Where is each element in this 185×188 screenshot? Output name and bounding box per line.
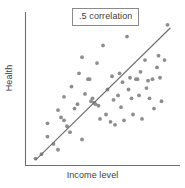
data-point (91, 96, 95, 100)
data-point (121, 80, 125, 84)
data-point (46, 121, 50, 125)
data-point (137, 93, 141, 97)
data-point (136, 77, 140, 81)
data-point (56, 148, 60, 152)
data-point (140, 117, 144, 121)
data-point (80, 55, 84, 59)
data-point (127, 88, 131, 92)
data-point (56, 108, 60, 112)
data-point (104, 113, 108, 117)
scatter-plot-figure: .5 correlation Health Income level (0, 0, 185, 188)
data-point (70, 85, 74, 89)
data-point (116, 93, 120, 97)
data-point (166, 23, 170, 27)
data-point (128, 76, 132, 80)
data-point (73, 107, 77, 111)
correlation-annotation-label: .5 correlation (79, 11, 132, 21)
data-point (76, 102, 80, 106)
data-point (46, 135, 50, 139)
data-point (101, 44, 105, 48)
data-point (68, 130, 72, 134)
data-point (143, 58, 147, 62)
data-point (77, 71, 81, 75)
data-point (125, 35, 129, 39)
data-point (88, 77, 92, 81)
data-point (152, 107, 156, 111)
data-point (145, 86, 149, 90)
x-axis-label: Income level (0, 170, 185, 180)
data-point (110, 74, 114, 78)
data-point (122, 118, 126, 122)
data-point (151, 77, 155, 81)
correlation-annotation-box: .5 correlation (72, 8, 139, 26)
data-point (131, 113, 135, 117)
data-point (130, 96, 134, 100)
data-point (112, 98, 116, 102)
data-point (148, 96, 152, 100)
data-point (109, 120, 113, 124)
data-point (160, 99, 164, 103)
data-point (59, 116, 63, 120)
data-point (83, 92, 87, 96)
data-point (163, 58, 167, 62)
y-axis-label: Health (4, 48, 14, 108)
data-point (98, 117, 102, 121)
data-point (146, 79, 150, 83)
data-point (113, 123, 117, 127)
data-point (62, 118, 66, 122)
plot-canvas (0, 0, 185, 188)
data-point (158, 76, 162, 80)
data-point (118, 71, 122, 75)
data-point (95, 61, 99, 65)
trend-line (36, 28, 171, 160)
data-point (62, 95, 66, 99)
data-point (97, 104, 101, 108)
data-point (119, 105, 123, 109)
data-point (155, 66, 159, 70)
data-point (80, 138, 84, 142)
axes-group (25, 12, 180, 166)
data-point (139, 70, 143, 74)
data-point (157, 54, 161, 58)
data-points-group (34, 23, 170, 161)
